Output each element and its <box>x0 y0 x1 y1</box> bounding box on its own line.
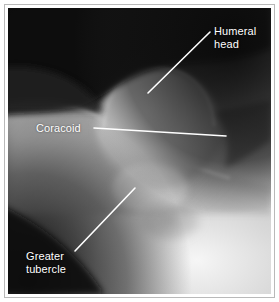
annotation-label-greater-tubercle: Greater tubercle <box>26 250 66 275</box>
figure-frame: Humeral head Coracoid Greater tubercle <box>0 0 279 302</box>
annotation-label-humeral-head: Humeral head <box>214 25 256 50</box>
annotation-label-coracoid: Coracoid <box>36 122 81 135</box>
